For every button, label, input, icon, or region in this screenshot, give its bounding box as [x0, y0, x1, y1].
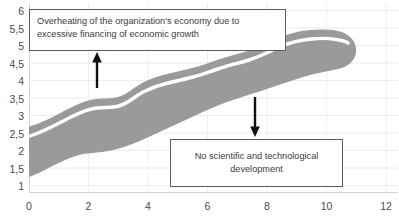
y-tick-label-2: 2 — [2, 146, 24, 157]
y-tick-label-5-5: 5,5 — [2, 23, 24, 34]
x-tick-label-2: 2 — [86, 201, 92, 212]
y-tick-label-1: 1 — [2, 181, 24, 192]
annotation-text-overheating: Overheating of the organization's econom… — [37, 15, 278, 40]
annotation-text-no-science: No scientific and technological developm… — [179, 150, 334, 175]
x-tick-label-12: 12 — [380, 201, 392, 212]
x-tick-label-0: 0 — [26, 201, 32, 212]
arrow-down-no-science — [250, 97, 260, 137]
y-tick-label-3: 3 — [2, 111, 24, 122]
y-tick-label-2-5: 2,5 — [2, 128, 24, 139]
x-tick-label-8: 8 — [264, 201, 270, 212]
y-tick-label-3-5: 3,5 — [2, 93, 24, 104]
annotation-box-no-science: No scientific and technological developm… — [170, 139, 343, 187]
y-tick-label-1-5: 1,5 — [2, 163, 24, 174]
arrow-up-overheating — [92, 52, 102, 88]
y-tick-label-5: 5 — [2, 41, 24, 52]
x-tick-label-10: 10 — [321, 201, 333, 212]
y-tick-label-4: 4 — [2, 76, 24, 87]
chart-container: 6 5,5 5 4,5 4 3,5 3 2,5 2 1,5 1 0 2 4 6 … — [0, 0, 399, 217]
y-tick-label-6: 6 — [2, 6, 24, 17]
x-tick-label-6: 6 — [205, 201, 211, 212]
x-tick-label-4: 4 — [145, 201, 151, 212]
annotation-box-overheating: Overheating of the organization's econom… — [29, 9, 286, 51]
y-tick-label-4-5: 4,5 — [2, 58, 24, 69]
